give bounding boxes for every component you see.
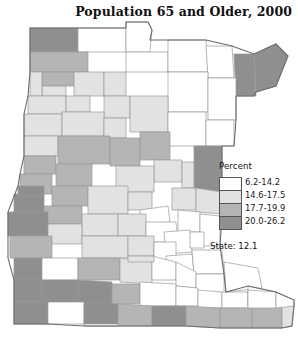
county-freeborn: [186, 306, 220, 328]
legend-swatches: [219, 177, 242, 230]
county-faribault: [152, 306, 186, 326]
county-marshall: [30, 52, 88, 72]
legend-swatch-2: [220, 204, 241, 217]
county-kandiyohi: [82, 214, 118, 236]
county-cottonwood: [78, 280, 112, 304]
map-figure: Population 65 and Older, 2000 Percent 6.…: [0, 0, 298, 346]
county-grant: [24, 156, 56, 174]
county-carlton: [206, 120, 234, 146]
county-beltrami-s: [104, 72, 126, 96]
county-mille-lacs: [154, 160, 182, 182]
county-red-lake: [42, 86, 66, 96]
county-winona: [276, 292, 294, 308]
county-chippewa: [48, 224, 82, 244]
county-clearwater: [74, 72, 104, 96]
county-polk: [30, 72, 42, 96]
county-mcleod: [128, 236, 154, 256]
county-lincoln: [14, 258, 42, 280]
county-lake-of-the-woods: [126, 22, 152, 52]
county-lake: [234, 54, 256, 96]
state-value-label: State: 12.1: [210, 241, 258, 251]
county-mower: [220, 308, 252, 328]
county-meeker: [118, 214, 146, 236]
county-cass: [130, 96, 168, 132]
legend-swatch-1: [220, 191, 241, 204]
county-lac-qui-parle: [8, 212, 48, 236]
county-pennington: [42, 72, 74, 86]
county-swift: [44, 206, 82, 224]
legend-labels: 6.2-14.214.6-17.517.7-19.920.0-26.2: [245, 174, 285, 228]
county-st-louis-c: [208, 78, 236, 120]
county-blue-earth: [140, 282, 176, 306]
county-clay: [24, 114, 62, 136]
county-pope: [52, 186, 88, 206]
county-isanti: [172, 188, 196, 210]
county-renville: [82, 236, 128, 258]
county-kittson: [30, 28, 78, 52]
county-st-louis-n: [206, 46, 234, 78]
legend-class-label-3: 20.0-26.2: [245, 215, 285, 228]
county-itasca: [168, 72, 208, 112]
county-hubbard: [104, 96, 130, 118]
county-murray: [42, 280, 78, 302]
county-becker: [62, 112, 104, 136]
county-big-stone: [14, 194, 44, 212]
legend-swatch-0: [220, 178, 241, 191]
county-roseau: [78, 28, 126, 52]
legend-class-label-2: 17.7-19.9: [245, 202, 285, 215]
county-fillmore: [252, 306, 282, 328]
county-benton: [128, 192, 152, 210]
county-anoka: [178, 210, 200, 232]
county-wilkin: [24, 136, 58, 156]
county-rock: [14, 302, 48, 324]
legend: Percent 6.2-14.214.6-17.517.7-19.920.0-2…: [218, 162, 285, 228]
legend-class-label-1: 14.6-17.5: [245, 189, 285, 202]
county-lyon: [42, 258, 78, 280]
county-dakota: [192, 250, 224, 274]
county-beltrami-n: [126, 52, 168, 72]
county-yellow-medicine: [10, 236, 52, 258]
county-redwood: [78, 258, 120, 280]
county-waseca: [176, 286, 198, 306]
county-nobles: [48, 302, 84, 324]
county-martin: [118, 304, 152, 326]
county-dodge: [222, 292, 248, 308]
county-traverse: [18, 186, 44, 196]
county-aitkin: [168, 112, 206, 146]
county-sibley: [128, 256, 154, 262]
legend-heading: Percent: [219, 162, 285, 171]
county-pipestone: [14, 280, 42, 302]
county-todd: [110, 138, 140, 166]
county-norman: [28, 96, 66, 114]
legend-swatch-3: [220, 217, 241, 229]
county-kanabec: [182, 162, 194, 188]
county-wadena: [104, 118, 126, 138]
county-otter-tail: [58, 136, 110, 164]
legend-class-label-0: 6.2-14.2: [245, 176, 285, 189]
county-steele: [198, 290, 222, 308]
county-stearns: [88, 186, 128, 214]
county-ramsey: [190, 232, 204, 248]
county-olmsted: [248, 290, 276, 308]
county-douglas: [56, 164, 92, 186]
county-crow-wing: [140, 132, 170, 160]
county-jackson: [84, 304, 118, 326]
county-koochiching: [168, 40, 208, 72]
county-watonwan: [112, 284, 140, 304]
county-mahnomen: [66, 96, 90, 112]
